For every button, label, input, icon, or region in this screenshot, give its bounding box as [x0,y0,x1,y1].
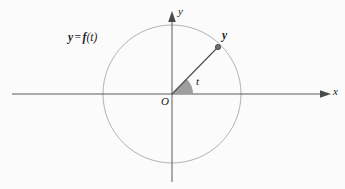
y-axis-arrow-icon [168,11,176,22]
x-axis-label: x [333,86,338,97]
diagram-canvas [0,0,345,189]
y-axis-label: y [178,6,183,17]
figure-container: y=f(t) y O t y x [0,0,345,189]
point-label: y [222,30,227,42]
point-marker [215,44,220,49]
position-vector-line [172,47,218,94]
angle-wedge [172,79,193,94]
function-label-equals: = [73,31,83,43]
angle-label: t [196,76,199,87]
x-axis-arrow-icon [320,90,331,98]
function-label: y=f(t) [68,32,97,44]
origin-label: O [161,96,169,107]
function-label-close-paren: ) [94,31,98,43]
